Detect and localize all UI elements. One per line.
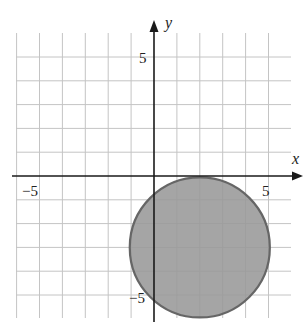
x-tick-label-pos5: 5 [262,183,270,199]
y-axis-label: y [163,14,173,32]
x-tick-label-neg5: −5 [22,183,38,199]
x-axis-arrow-icon [292,172,303,181]
y-tick-label-pos5: 5 [139,50,147,66]
x-axis [12,172,303,181]
y-axis-arrow-icon [150,20,159,32]
shaded-circle-region [130,177,270,317]
x-axis-label: x [291,150,299,167]
y-tick-label-neg5: −5 [129,290,145,306]
coordinate-plane: x y −5 5 5 −5 [0,0,303,329]
